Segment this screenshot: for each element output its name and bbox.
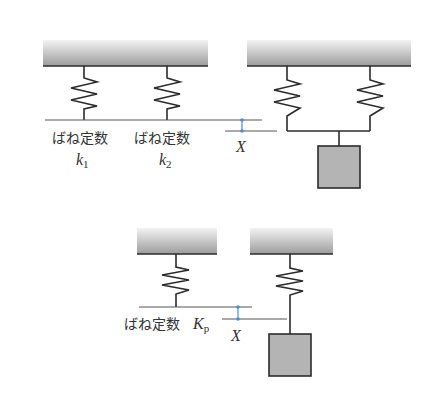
right-connector-bar xyxy=(287,131,370,146)
spring-kp-symbol: Kp xyxy=(192,315,210,334)
spring2-symbol: k2 xyxy=(159,151,172,170)
mass-bottom-right xyxy=(269,334,311,376)
top-right-ceiling xyxy=(247,40,411,66)
spring-kp xyxy=(162,254,189,307)
spring-diagram: ばね定数 k1 ばね定数 k2 X ばね定数 Kp xyxy=(0,0,437,393)
spring-kp-label: ばね定数 xyxy=(124,316,180,332)
spring1-symbol: k1 xyxy=(76,151,89,170)
displacement-marker-bottom xyxy=(222,305,287,321)
displacement-label-top: X xyxy=(235,138,247,155)
bottom-right-ceiling xyxy=(250,228,333,254)
spring-bottom-right xyxy=(276,254,303,334)
bottom-left-ceiling xyxy=(137,228,217,254)
top-left-ceiling xyxy=(43,40,208,66)
spring1-label: ばね定数 xyxy=(52,130,108,146)
spring-k1 xyxy=(71,66,97,120)
spring-k2 xyxy=(154,66,180,120)
spring-right-a xyxy=(274,66,300,131)
spring-right-b xyxy=(357,66,383,131)
displacement-label-bottom: X xyxy=(230,327,242,344)
spring2-label: ばね定数 xyxy=(134,130,190,146)
mass-top-right xyxy=(318,146,360,188)
